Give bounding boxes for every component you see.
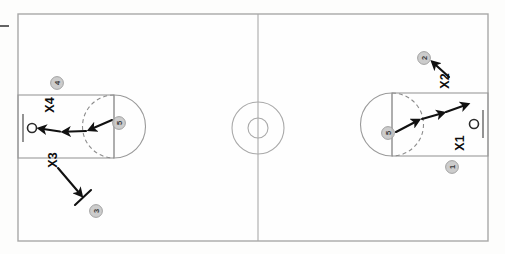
player-number-3: 3 <box>92 209 101 213</box>
basketball-court-svg: 4 5 3 2 5 1 X4 X3 X1 X2 <box>0 0 505 254</box>
arrow-segment-left-2 <box>64 131 86 132</box>
player-marker-o5-left[interactable]: 5 <box>113 117 126 130</box>
player-number-5-left: 5 <box>115 121 124 125</box>
defense-label-x3: X3 <box>46 152 60 167</box>
player-marker-o3-left[interactable]: 3 <box>90 205 103 218</box>
player-marker-o1-right[interactable]: 1 <box>446 161 459 174</box>
player-number-2: 2 <box>420 56 429 60</box>
defense-label-x2: X2 <box>438 73 452 88</box>
play-diagram-root: 4 5 3 2 5 1 X4 X3 X1 X2 <box>0 0 505 254</box>
court-boundary <box>18 14 488 241</box>
player-marker-o5-right[interactable]: 5 <box>382 127 395 140</box>
defense-label-x4: X4 <box>43 97 57 112</box>
defense-label-x1: X1 <box>453 135 467 150</box>
player-marker-o2-right[interactable]: 2 <box>418 52 431 65</box>
player-number-5-right: 5 <box>384 131 393 135</box>
player-number-1: 1 <box>448 165 457 169</box>
left-hoop <box>28 124 37 133</box>
right-hoop <box>470 120 479 129</box>
player-marker-o4-left[interactable]: 4 <box>51 77 64 90</box>
